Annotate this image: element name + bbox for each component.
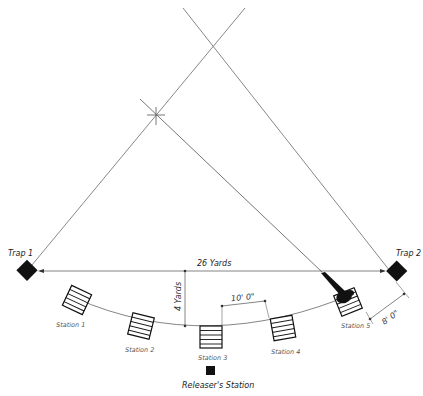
station-3-icon[interactable] <box>200 326 222 348</box>
station-4-icon[interactable] <box>270 315 295 340</box>
trap1-flight-line <box>27 8 245 271</box>
trap2-icon <box>386 260 407 281</box>
station-1-label: Station 1 <box>56 321 85 329</box>
arrowhead-right-icon <box>380 269 386 273</box>
station-2-icon[interactable] <box>128 313 155 340</box>
trap-distance-label: 26 Yards <box>197 259 231 268</box>
trap2-label: Trap 2 <box>396 249 421 258</box>
station-2-label: Station 2 <box>125 346 154 354</box>
trap1-label: Trap 1 <box>8 249 33 258</box>
arrowhead-left-icon <box>38 269 44 273</box>
station-3-label: Station 3 <box>198 354 227 362</box>
station-4-label: Station 4 <box>271 348 300 356</box>
station-1-icon[interactable] <box>62 285 91 314</box>
station-5-label: Station 5 <box>341 322 370 330</box>
trap1-icon <box>16 260 37 281</box>
shooter-line <box>140 99 322 272</box>
releaser-station-label: Releaser's Station <box>182 381 254 390</box>
skeet-field-diagram <box>0 0 423 396</box>
trap2-flight-line <box>183 8 390 271</box>
arc-depth-label: 4 Yards <box>174 282 183 311</box>
shooter-icon <box>321 272 354 305</box>
releaser-station-icon <box>206 366 215 375</box>
station-arc <box>75 293 355 326</box>
